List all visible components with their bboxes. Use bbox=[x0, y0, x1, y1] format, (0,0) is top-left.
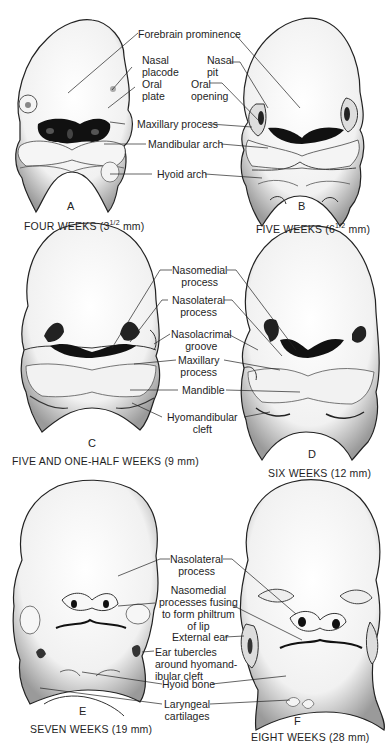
panel-letter-a: A bbox=[67, 200, 74, 212]
label-maxillary-process-c: Maxillary process bbox=[178, 354, 219, 378]
label-hyomandibular-cleft: Hyomandibular cleft bbox=[167, 411, 238, 435]
label-ear-tubercles-l1: Ear tubercles bbox=[155, 646, 237, 658]
label-ear-tubercles: Ear tubercles around hyomand- ibular cle… bbox=[155, 646, 237, 682]
label-maxillary-process-a: Maxillary process bbox=[137, 118, 218, 130]
label-oral-opening-l1: Oral bbox=[191, 78, 228, 90]
label-nasolacrimal-l1: Nasolacrimal bbox=[171, 328, 232, 340]
label-nasolateral-l2: process bbox=[172, 306, 225, 318]
label-nasomedial-l2: process bbox=[172, 276, 227, 288]
label-mandibular-arch: Mandibular arch bbox=[148, 138, 223, 150]
label-oral-opening: Oral opening bbox=[191, 78, 228, 102]
label-oral-plate-l2: plate bbox=[142, 90, 165, 102]
label-hyoid-arch: Hyoid arch bbox=[157, 168, 207, 180]
panel-letter-e: E bbox=[79, 705, 86, 717]
label-oral-plate-l1: Oral bbox=[142, 78, 165, 90]
label-ear-tubercles-l2: around hyomand- bbox=[155, 658, 237, 670]
label-philtrum-l3: to form philtrum bbox=[159, 608, 238, 620]
panel-a-embryo bbox=[16, 20, 133, 212]
label-nasal-placode-l1: Nasal bbox=[142, 54, 179, 66]
caption-eight-weeks: EIGHT WEEKS (28 mm) bbox=[251, 731, 370, 743]
label-maxillary-c-l2: process bbox=[178, 366, 219, 378]
label-philtrum-l2: processes fusing bbox=[159, 596, 238, 608]
label-external-ear: External ear bbox=[172, 631, 229, 643]
label-maxillary-c-l1: Maxillary bbox=[178, 354, 219, 366]
label-laryngeal-l1: Laryngeal bbox=[164, 698, 210, 710]
label-nasomedial-l1: Nasomedial bbox=[172, 264, 227, 276]
label-hyomandibular-l1: Hyomandibular bbox=[167, 411, 238, 423]
label-hyomandibular-l2: cleft bbox=[167, 423, 238, 435]
label-nasolateral-e-l1: Nasolateral bbox=[170, 553, 223, 565]
caption-b-fraction: 1/2 bbox=[335, 222, 345, 229]
label-nasolacrimal-l2: groove bbox=[171, 340, 232, 352]
caption-four-weeks: FOUR WEEKS (31/2 mm) bbox=[24, 219, 145, 232]
label-oral-opening-l2: opening bbox=[191, 90, 228, 102]
panel-letter-f: F bbox=[294, 715, 301, 727]
label-nasal-pit-l1: Nasal bbox=[207, 54, 234, 66]
label-laryngeal-cartilages: Laryngeal cartilages bbox=[164, 698, 210, 722]
label-nasomedial-process: Nasomedial process bbox=[172, 264, 227, 288]
caption-a-tail: mm) bbox=[120, 220, 145, 232]
label-nasolacrimal-groove: Nasolacrimal groove bbox=[171, 328, 232, 352]
panel-c-embryo bbox=[21, 223, 159, 432]
label-hyoid-bone: Hyoid bone bbox=[162, 678, 215, 690]
label-laryngeal-l2: cartilages bbox=[164, 710, 210, 722]
label-nasal-placode: Nasal placode bbox=[142, 54, 179, 78]
label-nasal-pit-l2: pit bbox=[207, 66, 234, 78]
caption-five-and-half-weeks: FIVE AND ONE-HALF WEEKS (9 mm) bbox=[12, 455, 199, 467]
label-philtrum-l1: Nasomedial bbox=[159, 584, 238, 596]
label-philtrum: Nasomedial processes fusing to form phil… bbox=[159, 584, 238, 632]
label-oral-plate: Oral plate bbox=[142, 78, 165, 102]
label-nasolateral-process: Nasolateral process bbox=[172, 294, 225, 318]
panel-f-embryo bbox=[240, 480, 384, 730]
panel-letter-c: C bbox=[88, 437, 96, 449]
label-nasolateral-l1: Nasolateral bbox=[172, 294, 225, 306]
panel-b-embryo bbox=[241, 18, 364, 226]
panel-e-embryo bbox=[13, 480, 158, 716]
caption-b-main: FIVE WEEKS (6 bbox=[256, 223, 335, 235]
panel-letter-b: B bbox=[298, 200, 305, 212]
caption-seven-weeks: SEVEN WEEKS (19 mm) bbox=[30, 723, 152, 735]
caption-five-weeks: FIVE WEEKS (61/2 mm) bbox=[256, 222, 370, 235]
label-nasal-placode-l2: placode bbox=[142, 66, 179, 78]
label-nasolateral-process-e: Nasolateral process bbox=[170, 553, 223, 577]
label-nasal-pit: Nasal pit bbox=[207, 54, 234, 78]
label-mandible: Mandible bbox=[182, 384, 225, 396]
panel-d-embryo bbox=[241, 226, 379, 460]
label-nasolateral-e-l2: process bbox=[170, 565, 223, 577]
caption-a-main: FOUR WEEKS (3 bbox=[24, 220, 109, 232]
caption-six-weeks: SIX WEEKS (12 mm) bbox=[268, 467, 371, 479]
label-forebrain-prominence: Forebrain prominence bbox=[138, 28, 241, 40]
caption-a-fraction: 1/2 bbox=[109, 219, 119, 226]
caption-b-tail: mm) bbox=[345, 223, 370, 235]
panel-letter-d: D bbox=[308, 448, 316, 460]
